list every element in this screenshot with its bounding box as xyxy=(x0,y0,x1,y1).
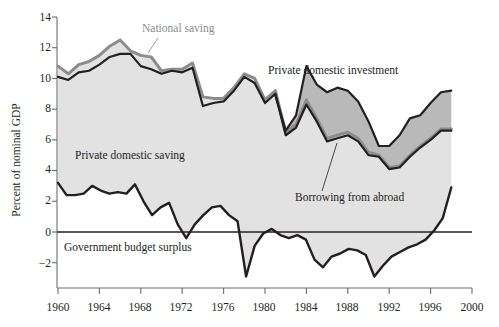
x-tick-label: 1960 xyxy=(47,301,70,313)
annotation-private-domestic-saving: Private domestic saving xyxy=(75,149,185,162)
y-tick-label: 12 xyxy=(40,41,52,53)
x-tick-label: 1976 xyxy=(212,301,235,313)
x-tick-label: 1980 xyxy=(253,301,276,313)
x-tick-label: 2000 xyxy=(461,301,484,313)
x-tick-label: 1964 xyxy=(88,301,111,313)
x-tick-label: 1972 xyxy=(170,301,193,313)
x-tick-label: 1984 xyxy=(295,301,318,313)
x-tick-label: 1996 xyxy=(419,301,442,313)
y-tick-label: 14 xyxy=(40,11,52,23)
y-tick-label: 8 xyxy=(45,102,51,114)
y-tick-label: 4 xyxy=(45,163,51,175)
y-tick-label: 0 xyxy=(45,226,51,238)
y-axis-title: Percent of nominal GDP xyxy=(10,103,22,216)
y-tick-label: 10 xyxy=(40,72,52,84)
x-tick-label: 1992 xyxy=(378,301,401,313)
chart-figure: 14 12 10 8 6 4 2 0 −2 1960 1964 1968 197… xyxy=(0,0,499,327)
x-tick-label: 1988 xyxy=(336,301,359,313)
annotation-national-saving: National saving xyxy=(142,22,215,35)
y-tick-label: 6 xyxy=(45,133,51,145)
y-tick-label: −2 xyxy=(39,257,51,269)
annotation-government-budget-surplus: Government budget surplus xyxy=(64,241,192,254)
national-saving-investment-chart: 14 12 10 8 6 4 2 0 −2 1960 1964 1968 197… xyxy=(0,0,499,327)
annotation-private-domestic-investment: Private domestic investment xyxy=(268,64,399,76)
y-tick-label: 2 xyxy=(45,194,51,206)
x-tick-label: 1968 xyxy=(129,301,152,313)
annotation-borrowing-from-abroad: Borrowing from abroad xyxy=(295,191,404,204)
